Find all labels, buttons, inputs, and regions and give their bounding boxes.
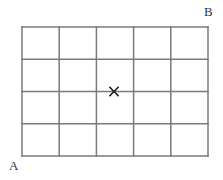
- corner-label-a: A: [9, 159, 18, 172]
- corner-label-b: B: [204, 5, 213, 18]
- grid-diagram-svg: [0, 0, 223, 180]
- figure-canvas: A B: [0, 0, 223, 180]
